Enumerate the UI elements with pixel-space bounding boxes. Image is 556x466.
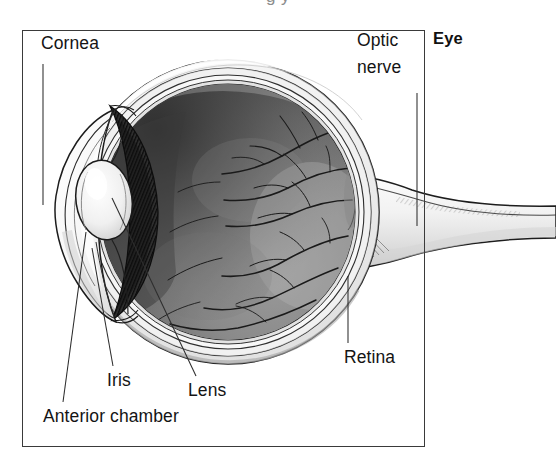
figure-page: g y — [0, 0, 556, 466]
figure-title: Eye — [433, 29, 463, 48]
label-optic-nerve-line1: Optic — [357, 30, 398, 51]
label-anterior-chamber: Anterior chamber — [43, 406, 179, 427]
label-retina: Retina — [344, 347, 395, 368]
label-cornea: Cornea — [41, 33, 99, 54]
label-optic-nerve-line2: nerve — [357, 57, 401, 78]
label-lens: Lens — [188, 380, 226, 401]
label-iris: Iris — [107, 370, 131, 391]
clipped-caption-above: g y — [0, 0, 556, 9]
